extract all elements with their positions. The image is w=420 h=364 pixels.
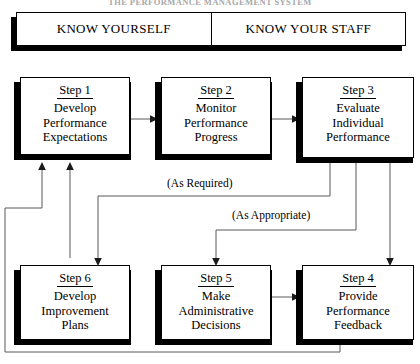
step1-body: DevelopPerformanceExpectations [43, 101, 108, 145]
header-banner: KNOW YOURSELF KNOW YOUR STAFF [16, 12, 406, 46]
edge-step3-step4 [386, 163, 394, 266]
banner-cell-know-your-staff: KNOW YOUR STAFF [211, 13, 406, 45]
node-step5[interactable]: Step 5 MakeAdministrativeDecisions [161, 265, 271, 340]
step2-body: MonitorPerformanceProgress [184, 101, 248, 145]
node-step6[interactable]: Step 6 DevelopImprovementPlans [20, 265, 130, 340]
node-step2[interactable]: Step 2 MonitorPerformanceProgress [161, 77, 271, 155]
step5-body: MakeAdministrativeDecisions [179, 289, 254, 333]
step2-label: Step 2 [198, 83, 234, 99]
step4-label: Step 4 [340, 271, 376, 287]
step6-label: Step 6 [57, 271, 93, 287]
edge-step6-step1 [66, 162, 74, 258]
step5-label: Step 5 [198, 271, 234, 287]
step4-body: ProvidePerformanceFeedback [326, 289, 390, 333]
step1-label: Step 1 [57, 83, 93, 99]
step6-body: DevelopImprovementPlans [41, 289, 108, 333]
edge-step1-step2 [130, 115, 158, 123]
step3-label: Step 3 [340, 83, 376, 99]
step3-body: EvaluateIndividualPerformance [326, 101, 390, 145]
annotation-as-required: (As Required) [165, 177, 234, 189]
node-step1[interactable]: Step 1 DevelopPerformanceExpectations [20, 77, 130, 155]
banner-cell-know-yourself: KNOW YOURSELF [17, 13, 211, 45]
flowchart-diagram: THE PERFORMANCE MANAGEMENT SYSTEM KNOW Y… [0, 0, 420, 364]
annotation-as-appropriate: (As Appropriate) [230, 209, 312, 221]
node-step3[interactable]: Step 3 EvaluateIndividualPerformance [302, 77, 414, 158]
node-step4[interactable]: Step 4 ProvidePerformanceFeedback [302, 265, 414, 340]
